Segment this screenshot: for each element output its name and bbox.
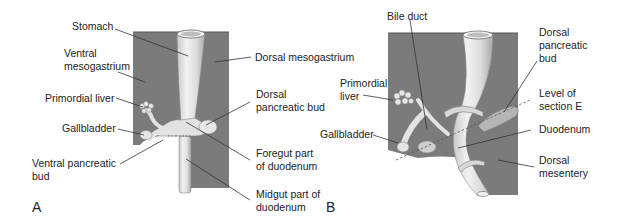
label-duodenum: Duodenum — [539, 123, 590, 136]
label-stomach: Stomach — [72, 20, 113, 33]
label-foregut-part-of-duodenum: Foregut part of duodenum — [256, 147, 317, 173]
label-dorsal-mesogastrium: Dorsal mesogastrium — [255, 51, 354, 64]
label-gallbladder-b: Gallbladder — [320, 128, 374, 141]
dorsal-pancreatic-bud-a — [199, 120, 217, 134]
label-dorsal-mesentery: Dorsal mesentery — [539, 154, 588, 180]
label-bile-duct: Bile duct — [387, 10, 427, 23]
gallbladder-a — [140, 131, 152, 140]
label-dorsal-pancreatic-bud-b: Dorsal pancreatic bud — [539, 26, 587, 65]
gallbladder-b — [397, 142, 409, 152]
label-ventral-pancreatic-bud: Ventral pancreatic bud — [32, 157, 116, 183]
panel-letter-b: B — [326, 199, 335, 215]
panel-a-art — [115, 29, 251, 200]
label-dorsal-pancreatic-bud-a: Dorsal pancreatic bud — [256, 88, 325, 114]
panel-letter-a: A — [32, 199, 41, 215]
label-gallbladder-a: Gallbladder — [62, 122, 116, 135]
label-primordial-liver-a: Primordial liver — [45, 92, 114, 105]
embryology-figure: Stomach Ventral mesogastrium Dorsal meso… — [0, 0, 617, 223]
label-midgut-part-of-duodenum: Midgut part of duodenum — [256, 188, 320, 214]
ventral-pancreatic-bud-b — [418, 141, 436, 153]
label-ventral-mesogastrium: Ventral mesogastrium — [64, 47, 130, 73]
label-level-of-section-e: Level of section E — [539, 87, 582, 113]
midgut-tube — [179, 136, 191, 193]
panel-b-art — [363, 20, 537, 197]
label-primordial-liver-b: Primordial liver — [340, 77, 387, 103]
